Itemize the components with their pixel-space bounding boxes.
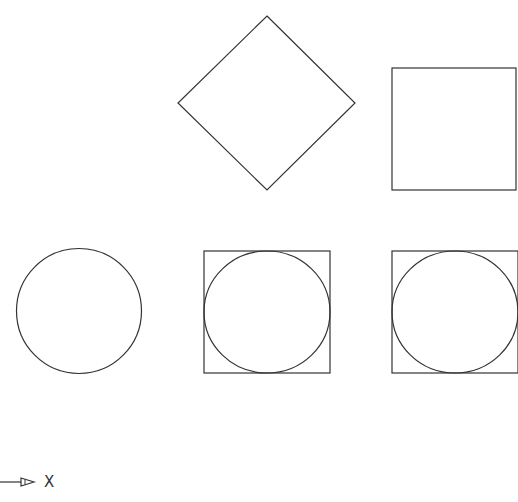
square-middle: [204, 251, 330, 373]
x-axis-arrow-icon: [0, 478, 34, 486]
diamond-shape: [178, 16, 355, 190]
diagram-canvas: [0, 0, 518, 502]
circle-middle: [204, 251, 330, 373]
square-top-right: [392, 68, 516, 190]
circle-in-square-right: [392, 251, 518, 373]
circle-right: [392, 251, 518, 373]
square-right: [392, 251, 518, 373]
circle-in-square-middle: [204, 251, 330, 373]
x-axis-label: X: [44, 475, 54, 490]
circle-left: [17, 249, 142, 374]
